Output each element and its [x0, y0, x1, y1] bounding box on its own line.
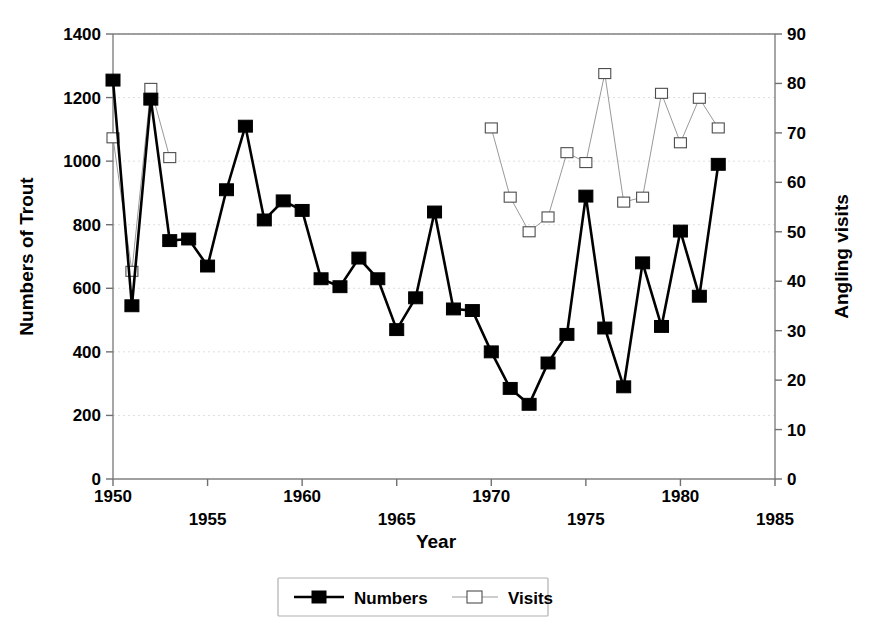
- data-point-numbers: [617, 381, 631, 393]
- data-point-visits: [674, 138, 686, 148]
- data-point-numbers: [560, 328, 574, 340]
- data-point-numbers: [257, 214, 271, 226]
- x-tick-label: 1965: [378, 510, 416, 529]
- data-point-numbers: [333, 281, 347, 293]
- data-point-visits: [693, 93, 705, 103]
- left-axis-ticks: [106, 34, 113, 479]
- data-point-numbers: [484, 346, 498, 358]
- x-tick-label: 1960: [283, 487, 321, 506]
- data-point-numbers: [692, 290, 706, 302]
- legend-label-visits: Visits: [508, 589, 553, 608]
- right-tick-label: 60: [787, 173, 806, 192]
- right-tick-label: 30: [787, 322, 806, 341]
- right-tick-label: 50: [787, 223, 806, 242]
- left-tick-label: 1200: [63, 89, 101, 108]
- left-tick-label: 1000: [63, 152, 101, 171]
- series-numbers: [106, 74, 725, 410]
- data-point-numbers: [711, 158, 725, 170]
- data-point-visits: [712, 123, 724, 133]
- right-tick-label: 80: [787, 74, 806, 93]
- data-point-numbers: [636, 257, 650, 269]
- data-point-numbers: [579, 190, 593, 202]
- data-point-numbers: [106, 74, 120, 86]
- legend-visits-marker: [467, 591, 482, 603]
- right-tick-label: 20: [787, 371, 806, 390]
- data-point-numbers: [219, 184, 233, 196]
- data-point-visits: [637, 192, 649, 202]
- series-visits: [107, 69, 724, 277]
- x-axis-tick-labels: 19501955196019651970197519801985: [94, 487, 794, 529]
- data-point-numbers: [541, 357, 555, 369]
- dual-axis-line-chart: 0200400600800100012001400 01020304050607…: [0, 0, 872, 638]
- data-point-numbers: [201, 260, 215, 272]
- left-tick-label: 1400: [63, 25, 101, 44]
- left-tick-label: 800: [73, 216, 101, 235]
- right-tick-label: 10: [787, 421, 806, 440]
- data-point-numbers: [428, 206, 442, 218]
- data-point-numbers: [163, 235, 177, 247]
- chart-container: 0200400600800100012001400 01020304050607…: [0, 0, 872, 638]
- left-axis-tick-labels: 0200400600800100012001400: [63, 25, 101, 489]
- left-tick-label: 400: [73, 343, 101, 362]
- data-point-numbers: [238, 120, 252, 132]
- data-point-numbers: [465, 305, 479, 317]
- data-point-visits: [656, 88, 668, 98]
- x-axis-ticks: [113, 479, 775, 486]
- data-point-numbers: [598, 322, 612, 334]
- right-tick-label: 70: [787, 124, 806, 143]
- data-point-numbers: [182, 233, 196, 245]
- chart-legend[interactable]: Numbers Visits: [278, 578, 553, 616]
- data-point-numbers: [503, 382, 517, 394]
- legend-label-numbers: Numbers: [354, 589, 428, 608]
- data-point-visits: [561, 148, 573, 158]
- data-point-visits: [580, 158, 592, 168]
- legend-numbers-marker: [312, 591, 326, 603]
- x-tick-label: 1980: [662, 487, 700, 506]
- data-point-visits: [599, 69, 611, 79]
- right-axis-ticks: [775, 34, 782, 479]
- data-point-numbers: [144, 93, 158, 105]
- data-point-numbers: [673, 225, 687, 237]
- data-point-numbers: [276, 195, 290, 207]
- y-axis-right-title: Angling visits: [831, 194, 852, 319]
- data-point-numbers: [446, 303, 460, 315]
- data-point-numbers: [522, 398, 536, 410]
- x-tick-label: 1985: [756, 510, 794, 529]
- data-point-numbers: [295, 204, 309, 216]
- data-point-visits: [485, 123, 497, 133]
- x-tick-label: 1950: [94, 487, 132, 506]
- x-axis-title: Year: [416, 531, 457, 552]
- right-tick-label: 40: [787, 272, 806, 291]
- x-tick-label: 1970: [472, 487, 510, 506]
- data-point-visits: [523, 227, 535, 237]
- x-tick-label: 1975: [567, 510, 605, 529]
- x-tick-label: 1955: [189, 510, 227, 529]
- y-axis-left-title: Numbers of Trout: [16, 177, 37, 336]
- data-point-visits: [504, 192, 516, 202]
- data-point-visits: [145, 83, 157, 93]
- right-tick-label: 0: [787, 470, 796, 489]
- data-point-numbers: [125, 300, 139, 312]
- right-tick-label: 90: [787, 25, 806, 44]
- data-point-numbers: [390, 324, 404, 336]
- right-axis-tick-labels: 0102030405060708090: [787, 25, 806, 489]
- data-point-numbers: [409, 292, 423, 304]
- data-point-visits: [618, 197, 630, 207]
- data-point-visits: [542, 212, 554, 222]
- data-point-visits: [164, 153, 176, 163]
- data-point-numbers: [655, 320, 669, 332]
- data-point-numbers: [314, 273, 328, 285]
- data-point-numbers: [352, 252, 366, 264]
- series-line-numbers: [113, 80, 718, 404]
- left-tick-label: 600: [73, 279, 101, 298]
- left-tick-label: 200: [73, 406, 101, 425]
- data-point-numbers: [371, 273, 385, 285]
